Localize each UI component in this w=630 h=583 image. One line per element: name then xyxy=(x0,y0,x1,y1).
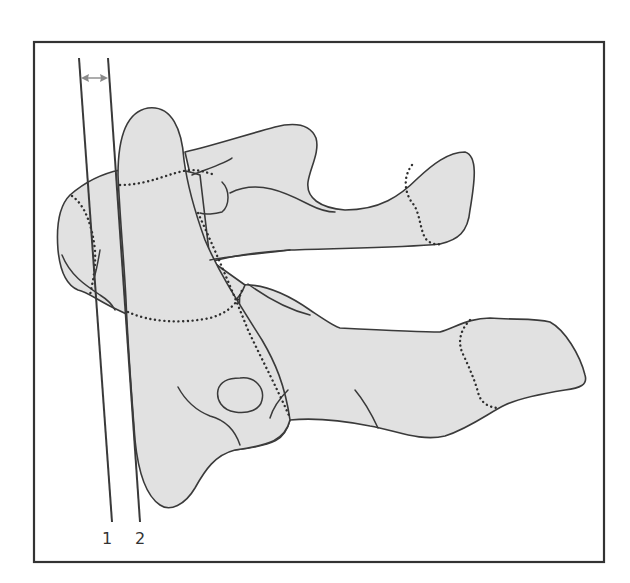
reference-line-2-label: 2 xyxy=(135,529,145,548)
double-arrow-icon xyxy=(81,74,108,82)
vertebrae-diagram: 1 2 xyxy=(0,0,630,583)
reference-line-1-label: 1 xyxy=(102,529,112,548)
